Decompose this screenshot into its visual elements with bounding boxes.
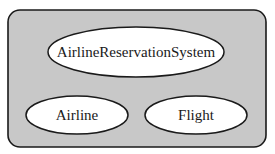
package-diagram: AirlineReservationSystem Airline Flight	[0, 0, 275, 154]
node-airline: Airline	[26, 96, 128, 134]
node-label: Airline	[56, 107, 99, 123]
node-flight: Flight	[145, 96, 247, 134]
node-label: Flight	[178, 107, 215, 123]
node-airline-reservation-system: AirlineReservationSystem	[48, 27, 224, 77]
node-label: AirlineReservationSystem	[57, 44, 216, 60]
